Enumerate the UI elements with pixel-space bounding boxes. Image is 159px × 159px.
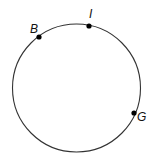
point-i bbox=[86, 23, 91, 28]
label-b: B bbox=[30, 22, 38, 36]
point-g bbox=[131, 110, 136, 115]
label-g: G bbox=[137, 110, 146, 124]
label-i: I bbox=[89, 7, 93, 21]
circle-diagram: B I G bbox=[0, 0, 159, 159]
circle bbox=[13, 24, 141, 152]
